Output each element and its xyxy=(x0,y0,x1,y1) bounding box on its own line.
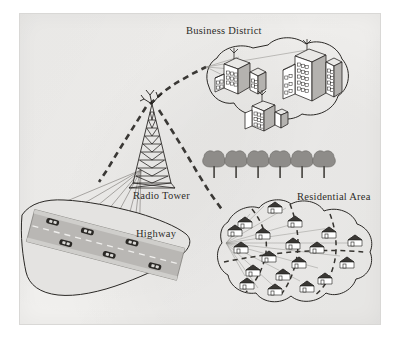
house xyxy=(300,281,314,292)
house xyxy=(288,216,302,227)
house xyxy=(238,217,252,228)
tree-row xyxy=(203,151,336,178)
label-radio-tower: Radio Tower xyxy=(133,190,190,201)
label-residential-area: Residential Area xyxy=(297,191,371,202)
house xyxy=(318,273,332,284)
highway-group xyxy=(21,200,189,296)
link-tower-business xyxy=(150,67,206,104)
diagram-canvas: Business District Radio Tower Highway Re… xyxy=(0,0,399,346)
tree xyxy=(203,151,226,178)
house xyxy=(340,257,354,268)
house xyxy=(234,242,248,253)
tree xyxy=(225,151,248,178)
diagram-artwork xyxy=(0,0,399,346)
residential-area-group xyxy=(217,200,371,302)
label-highway: Highway xyxy=(136,228,176,239)
house xyxy=(268,202,282,213)
tree xyxy=(269,151,292,178)
building xyxy=(283,39,342,101)
radio-tower xyxy=(129,90,175,188)
tree xyxy=(313,151,336,178)
house xyxy=(310,242,324,253)
house xyxy=(276,269,290,280)
house xyxy=(256,228,270,239)
house xyxy=(246,265,260,276)
building xyxy=(215,48,266,94)
tree xyxy=(291,151,314,178)
house xyxy=(268,284,282,295)
building xyxy=(245,90,288,131)
house xyxy=(292,257,306,268)
label-business-district: Business District xyxy=(186,25,262,36)
tree xyxy=(247,151,270,178)
business-district-group xyxy=(206,38,348,131)
house xyxy=(348,235,362,246)
house xyxy=(262,251,276,262)
